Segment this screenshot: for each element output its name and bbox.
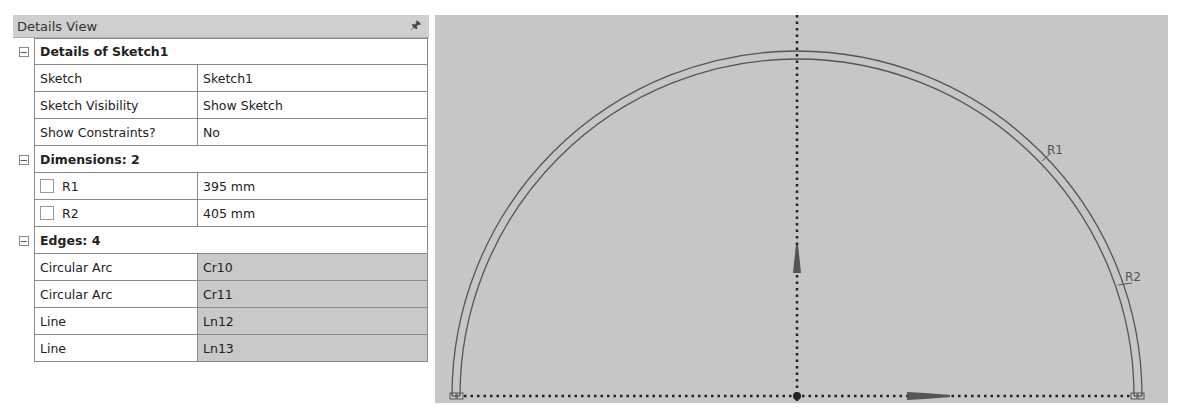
details-view-panel: Details View 🖈 − Details of Sketch1 Sket… [13, 15, 429, 362]
edge-type: Line [34, 335, 198, 362]
inner-arc[interactable] [460, 59, 1134, 396]
dimension-name-cell: R2 [34, 200, 198, 227]
edge-row[interactable]: Circular Arc Cr10 [13, 254, 429, 281]
edge-id: Cr10 [198, 254, 428, 281]
edge-row[interactable]: Line Ln12 [13, 308, 429, 335]
property-row[interactable]: Sketch Visibility Show Sketch [13, 92, 429, 119]
group-header-edges[interactable]: − Edges: 4 [13, 227, 429, 254]
group-label: Details of Sketch1 [34, 38, 428, 65]
group-header-details[interactable]: − Details of Sketch1 [13, 38, 429, 65]
details-view-title: Details View [17, 19, 97, 34]
group-header-dimensions[interactable]: − Dimensions: 2 [13, 146, 429, 173]
details-view-header: Details View 🖈 [13, 15, 429, 38]
collapse-icon[interactable]: − [19, 236, 29, 246]
dimension-value[interactable]: 405 mm [198, 200, 428, 227]
group-label: Edges: 4 [34, 227, 428, 254]
edge-type: Line [34, 308, 198, 335]
dimension-name-cell: R1 [34, 173, 198, 200]
dimension-label-r2[interactable]: R2 [1125, 270, 1141, 284]
edge-row[interactable]: Line Ln13 [13, 335, 429, 362]
group-label: Dimensions: 2 [34, 146, 428, 173]
dimension-value[interactable]: 395 mm [198, 173, 428, 200]
edge-id: Cr11 [198, 281, 428, 308]
x-axis-arrow-icon [907, 392, 950, 400]
origin-point [793, 392, 801, 400]
property-value[interactable]: No [198, 119, 428, 146]
dimension-label-r1[interactable]: R1 [1047, 143, 1063, 157]
property-value[interactable]: Show Sketch [198, 92, 428, 119]
graphics-viewport[interactable]: R1 R2 [435, 15, 1168, 403]
edge-id: Ln13 [198, 335, 428, 362]
details-table: − Details of Sketch1 Sketch Sketch1 Sket… [13, 38, 429, 362]
collapse-icon[interactable]: − [19, 47, 29, 57]
property-name: Sketch [34, 65, 198, 92]
dimension-name: R1 [62, 179, 79, 194]
property-value[interactable]: Sketch1 [198, 65, 428, 92]
property-row[interactable]: Show Constraints? No [13, 119, 429, 146]
property-name: Show Constraints? [34, 119, 198, 146]
parameter-checkbox[interactable] [40, 206, 54, 220]
edge-type: Circular Arc [34, 281, 198, 308]
edge-row[interactable]: Circular Arc Cr11 [13, 281, 429, 308]
property-row[interactable]: Sketch Sketch1 [13, 65, 429, 92]
edge-type: Circular Arc [34, 254, 198, 281]
dimension-name: R2 [62, 206, 79, 221]
edge-id: Ln12 [198, 308, 428, 335]
dimension-row[interactable]: R1 395 mm [13, 173, 429, 200]
y-axis-arrow-icon [793, 245, 801, 273]
collapse-icon[interactable]: − [19, 155, 29, 165]
property-name: Sketch Visibility [34, 92, 198, 119]
pin-icon[interactable]: 🖈 [410, 16, 421, 37]
dimension-row[interactable]: R2 405 mm [13, 200, 429, 227]
sketch-canvas[interactable]: R1 R2 [435, 15, 1168, 403]
parameter-checkbox[interactable] [40, 179, 54, 193]
